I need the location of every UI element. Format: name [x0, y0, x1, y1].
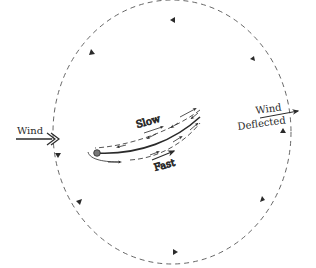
wind-in-label: Wind [17, 125, 44, 136]
arrow-icon [260, 196, 265, 202]
arrow-icon [76, 199, 82, 205]
airflow-diagram: Wind Wind Deflected Slow Fast [0, 0, 316, 268]
slow-label: Slow [135, 113, 162, 130]
wind-deflected-label-line2: Deflected [237, 114, 287, 132]
airfoil-leading-edge [94, 150, 101, 157]
wind-in-arrow: Wind [16, 125, 59, 145]
wind-deflected-arrow: Wind Deflected [237, 101, 298, 132]
circulation-loop [53, 0, 291, 264]
arrow-icon [250, 56, 255, 61]
arrow-icon [280, 128, 286, 133]
arrow-icon [55, 153, 61, 158]
wind-deflected-label-line1: Wind [255, 101, 283, 116]
upper-slow-flow: Slow [95, 109, 200, 148]
arrow-icon [173, 249, 178, 255]
loop-direction-arrows [55, 17, 286, 255]
arrow-icon [170, 17, 175, 23]
fast-label: Fast [153, 157, 176, 173]
arrow-icon [89, 49, 95, 55]
